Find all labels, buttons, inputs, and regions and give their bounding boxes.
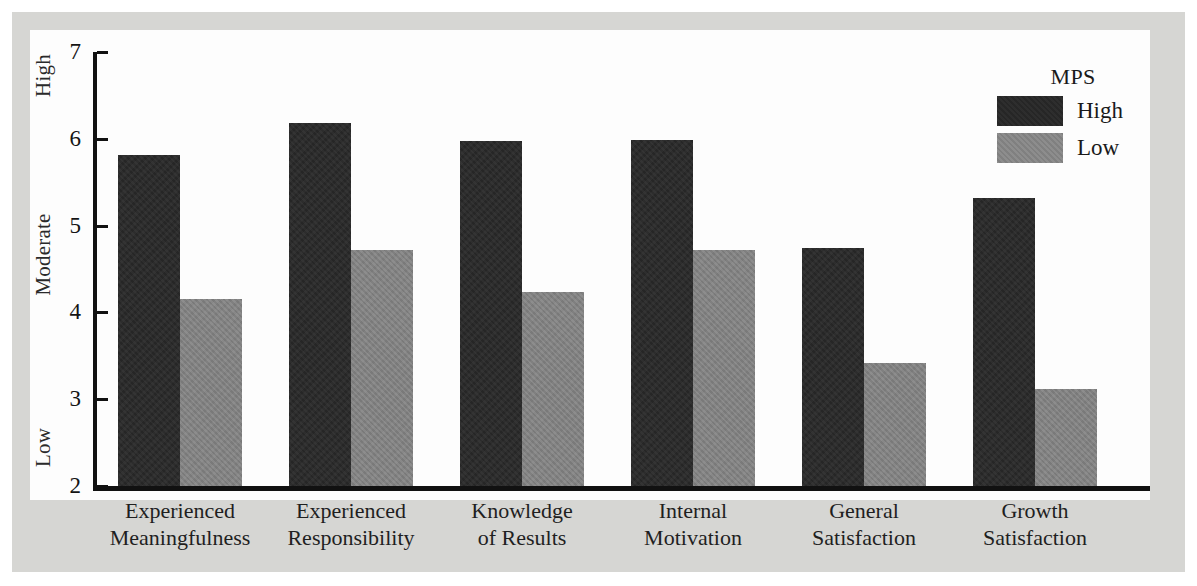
y-tick-mark-3 xyxy=(97,398,108,401)
legend-swatch-high-icon xyxy=(997,96,1063,126)
x-category-label-6: GrowthSatisfaction xyxy=(930,498,1140,552)
y-tick-label-7: 7 xyxy=(55,40,81,63)
bar-low-3[interactable] xyxy=(522,292,584,486)
bar-low-1[interactable] xyxy=(180,299,242,486)
bar-high-2[interactable] xyxy=(289,123,351,486)
y-tick-mark-4 xyxy=(97,311,108,314)
y-tick-label-5: 5 xyxy=(55,214,81,237)
legend-swatch-low-icon xyxy=(997,133,1063,163)
bar-low-6[interactable] xyxy=(1035,389,1097,486)
bar-low-4[interactable] xyxy=(693,250,755,486)
legend-item-low[interactable]: Low xyxy=(997,133,1157,163)
bar-low-2[interactable] xyxy=(351,250,413,486)
legend-title: MPS xyxy=(1003,64,1143,90)
y-tick-label-4: 4 xyxy=(55,300,81,323)
bar-high-1[interactable] xyxy=(118,155,180,486)
y-axis-anchor-low: Low xyxy=(31,373,56,523)
bar-high-4[interactable] xyxy=(631,140,693,486)
y-tick-mark-5 xyxy=(97,225,108,228)
y-tick-mark-7 xyxy=(97,51,108,54)
y-tick-mark-6 xyxy=(97,138,108,141)
bar-high-6[interactable] xyxy=(973,198,1035,486)
legend: MPS High Low xyxy=(997,64,1157,170)
legend-item-high[interactable]: High xyxy=(997,96,1157,126)
y-axis-line xyxy=(93,52,97,491)
bar-low-5[interactable] xyxy=(864,363,926,486)
y-axis-anchor-moderate: Moderate xyxy=(31,180,56,330)
legend-label-low: Low xyxy=(1077,135,1119,161)
y-tick-label-2: 2 xyxy=(55,474,81,497)
bar-high-3[interactable] xyxy=(460,141,522,486)
x-axis-line xyxy=(93,486,1150,491)
y-tick-label-3: 3 xyxy=(55,387,81,410)
y-axis-anchor-high: High xyxy=(31,1,56,151)
x-category-label-line2: Satisfaction xyxy=(930,525,1140,552)
x-category-label-line1: Growth xyxy=(930,498,1140,525)
chart-panel: High Moderate Low 234567 ExperiencedMean… xyxy=(12,12,1185,572)
legend-label-high: High xyxy=(1077,98,1123,124)
y-tick-label-6: 6 xyxy=(55,127,81,150)
figure-container: High Moderate Low 234567 ExperiencedMean… xyxy=(0,0,1197,586)
bar-high-5[interactable] xyxy=(802,248,864,486)
